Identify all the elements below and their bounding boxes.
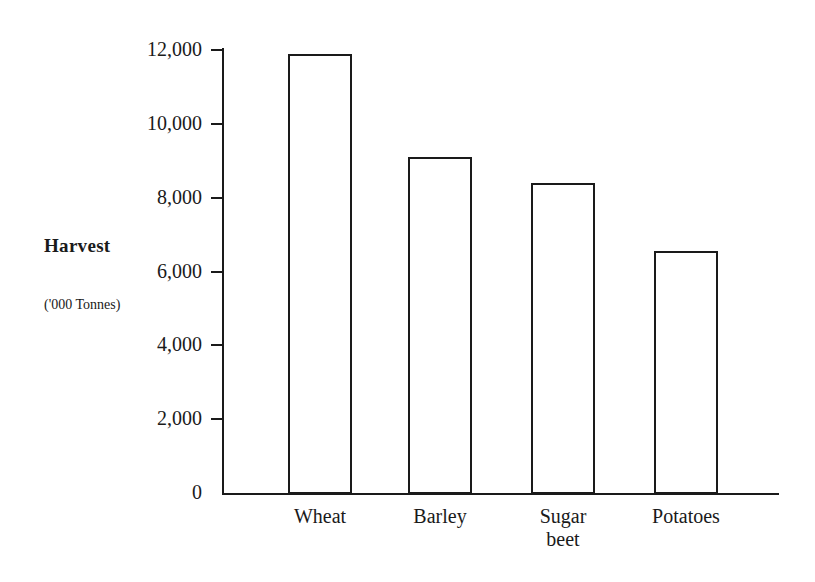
y-axis-tick-label-text: 0 [192, 482, 202, 502]
y-axis-tick-mark [211, 344, 223, 346]
y-axis-tick-mark [211, 123, 223, 125]
y-axis-tick-mark [211, 49, 223, 51]
y-axis-tick-mark [211, 271, 223, 273]
harvest-bar-chart: Harvest ('000 Tonnes) 12,00010,0008,0006… [0, 0, 815, 582]
y-axis-tick-label-text: 4,000 [157, 334, 202, 354]
y-axis-tick-label-text: 8,000 [157, 187, 202, 207]
plot-area: 12,00010,0008,0006,0004,0002,0000 WheatB… [0, 0, 815, 582]
bar [288, 54, 352, 494]
y-axis-tick-label-text: 6,000 [157, 261, 202, 281]
x-axis-category-label: Potatoes [616, 505, 756, 528]
x-axis-category-label: Wheat [250, 505, 390, 528]
y-axis-tick-label-text: 10,000 [147, 113, 202, 133]
x-axis-category-label: Barley [370, 505, 510, 528]
y-axis-tick-label-text: 12,000 [147, 39, 202, 59]
y-axis-tick-label-text: 2,000 [157, 408, 202, 428]
bar [654, 251, 718, 494]
y-axis-tick-mark [211, 197, 223, 199]
y-axis-tick-mark [211, 418, 223, 420]
x-axis-category-label: Sugar beet [493, 505, 633, 551]
bar [531, 183, 595, 494]
bar [408, 157, 472, 494]
